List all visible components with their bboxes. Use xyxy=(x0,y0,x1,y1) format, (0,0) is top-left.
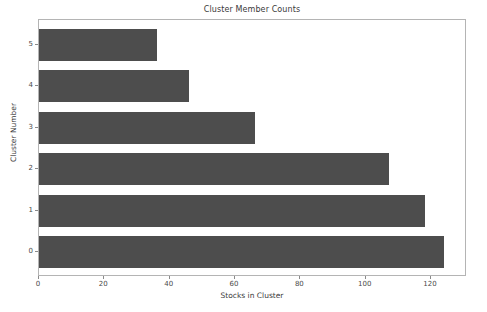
x-tick-mark xyxy=(299,276,300,279)
y-tick-mark xyxy=(35,251,38,252)
x-tick-label: 120 xyxy=(423,280,436,288)
x-tick-label: 80 xyxy=(295,280,304,288)
x-tick-label: 20 xyxy=(99,280,108,288)
x-tick-label: 100 xyxy=(358,280,371,288)
y-tick-mark xyxy=(35,44,38,45)
y-tick-label: 4 xyxy=(29,81,33,89)
x-tick-mark xyxy=(38,276,39,279)
y-tick-mark xyxy=(35,85,38,86)
x-tick-label: 0 xyxy=(36,280,40,288)
x-tick-label: 60 xyxy=(230,280,239,288)
x-tick-mark xyxy=(169,276,170,279)
bar xyxy=(39,112,255,144)
x-tick-mark xyxy=(103,276,104,279)
y-tick-label: 2 xyxy=(29,164,33,172)
x-axis-label: Stocks in Cluster xyxy=(38,291,466,300)
y-axis-label: Cluster Number xyxy=(9,73,18,193)
bar xyxy=(39,236,444,268)
bar xyxy=(39,70,189,102)
y-tick-mark xyxy=(35,210,38,211)
y-tick-mark xyxy=(35,127,38,128)
chart-figure: Cluster Member Counts 020406080100120 01… xyxy=(0,0,487,312)
bar xyxy=(39,195,425,227)
y-tick-label: 1 xyxy=(29,206,33,214)
x-tick-mark xyxy=(234,276,235,279)
x-tick-label: 40 xyxy=(164,280,173,288)
x-tick-mark xyxy=(365,276,366,279)
y-tick-label: 5 xyxy=(29,40,33,48)
y-tick-mark xyxy=(35,168,38,169)
bar xyxy=(39,29,157,61)
chart-title: Cluster Member Counts xyxy=(38,5,466,14)
y-tick-label: 3 xyxy=(29,123,33,131)
bar xyxy=(39,153,389,185)
x-tick-mark xyxy=(430,276,431,279)
plot-area xyxy=(38,19,466,276)
y-tick-label: 0 xyxy=(29,247,33,255)
